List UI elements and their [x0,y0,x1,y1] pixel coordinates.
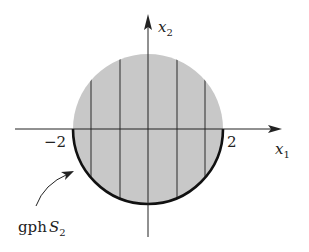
annotation-arrowhead-icon [61,171,74,180]
x1-axis-label: x1 [275,140,290,160]
tick-label-neg2: −2 [44,133,66,151]
tick-label-2: 2 [227,133,237,151]
annotation-arrow [36,174,68,206]
diagram-canvas: x2 x1 −2 2 gphS2 [0,0,309,252]
annotation-label: gphS2 [18,218,66,238]
x2-axis-label: x2 [158,18,173,38]
